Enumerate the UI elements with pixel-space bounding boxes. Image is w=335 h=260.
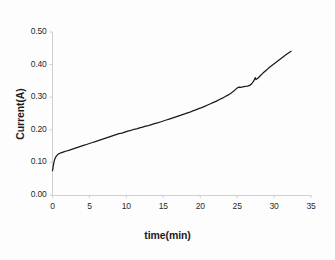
data-series-line [53, 51, 292, 170]
x-tick-label: 10 [115, 201, 137, 211]
y-tick-label: 0.00 [21, 189, 47, 199]
chart-plot-area [0, 0, 335, 260]
x-tick-label: 30 [263, 201, 285, 211]
y-tick-label: 0.10 [21, 156, 47, 166]
x-tick-label: 25 [226, 201, 248, 211]
x-tick-label: 15 [152, 201, 174, 211]
x-tick-label: 20 [189, 201, 211, 211]
x-axis-title: time(min) [0, 229, 335, 241]
y-tick-label: 0.50 [21, 26, 47, 36]
x-tick-label: 35 [300, 201, 322, 211]
chart-figure: 0.000.100.200.300.400.50 05101520253035 … [0, 0, 335, 260]
y-tick-label: 0.40 [21, 59, 47, 69]
axis-lines [53, 32, 312, 196]
y-axis-title: Current(A) [14, 72, 26, 156]
x-tick-label: 5 [78, 201, 100, 211]
x-tick-label: 0 [42, 201, 64, 211]
